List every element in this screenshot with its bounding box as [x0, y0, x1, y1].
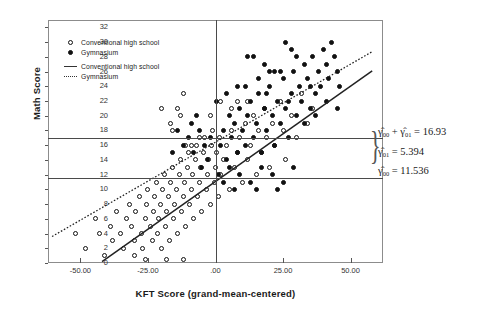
reference-line-center-line — [216, 20, 217, 263]
legend-label: Conventional high school — [78, 62, 159, 71]
annotation-gamma01: γ̂01 = 5.394 — [378, 144, 446, 164]
annotation-gamma00-plus-gamma01: γ̂00 + γ̂01 = 16.93 — [378, 124, 446, 144]
annotation-equations: γ̂00 + γ̂01 = 16.93 γ̂01 = 5.394 γ̂00 = … — [378, 124, 446, 183]
legend-label: Gymnasium — [78, 72, 118, 81]
legend-item-line-conventional: Conventional high school — [62, 62, 159, 71]
scatter-plot-figure: Math Score KFT Score (grand-mean-centere… — [0, 0, 495, 315]
fit-line-conventional-high-school — [102, 71, 372, 262]
legend-label: Conventional high school — [78, 38, 159, 47]
legend-item-marker-gymnasium: Gymnasium — [62, 48, 159, 57]
legend-item-line-gymnasium: Gymnasium — [62, 72, 159, 81]
annotation-gamma00: γ̂00 = 11.536 — [378, 163, 446, 183]
filled-circle-icon — [62, 50, 78, 55]
legend-item-marker-conventional: Conventional high school — [62, 38, 159, 47]
legend-label: Gymnasium — [78, 48, 118, 57]
solid-line-icon — [62, 66, 78, 67]
dotted-line-icon — [62, 76, 78, 77]
legend: Conventional high school Gymnasium Conve… — [62, 38, 159, 81]
open-circle-icon — [62, 40, 78, 45]
